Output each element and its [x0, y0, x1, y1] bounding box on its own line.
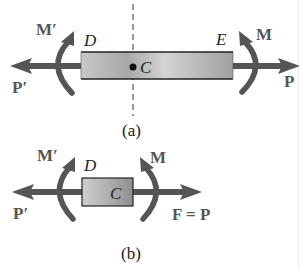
label-force-left-a: P′ — [12, 78, 27, 97]
figure-a: M′ P′ D E C M P (a) — [10, 4, 300, 140]
label-force-left-b: P′ — [13, 204, 28, 223]
label-end-e-a: E — [215, 30, 227, 49]
label-moment-left-b: M′ — [37, 146, 58, 165]
force-arrow-left-a — [10, 58, 82, 74]
beam-diagram: M′ P′ D E C M P (a) M′ P′ — [0, 0, 302, 269]
moment-arc-left-b — [59, 157, 75, 219]
moment-arc-left-a — [58, 31, 74, 93]
centroid-dot — [130, 64, 137, 71]
label-centroid-b: C — [110, 184, 122, 203]
moment-arc-right-a — [239, 31, 256, 92]
label-end-d-a: D — [83, 31, 97, 50]
label-force-right-a: P — [284, 72, 294, 91]
label-force-right-b: F = P — [172, 205, 210, 224]
caption-b: (b) — [121, 244, 141, 263]
beam-segment — [82, 178, 133, 206]
label-moment-right-b: M — [150, 148, 166, 167]
beam — [81, 52, 233, 79]
force-arrow-right-b — [133, 184, 202, 200]
label-moment-left-a: M′ — [36, 20, 57, 39]
label-centroid-a: C — [140, 58, 152, 77]
caption-a: (a) — [122, 121, 141, 140]
label-moment-right-a: M — [256, 25, 272, 44]
figure-b: M′ P′ D C M F = P (b) — [12, 146, 210, 263]
force-arrow-left-b — [12, 184, 82, 200]
label-end-d-b: D — [83, 156, 97, 175]
